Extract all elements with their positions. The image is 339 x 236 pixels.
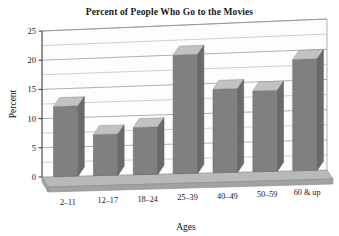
y-tick-label-20: 20	[28, 55, 37, 65]
bar-side-face	[238, 80, 244, 173]
bar-front-face	[293, 59, 318, 171]
bar-3	[133, 118, 164, 175]
bar-front-face	[133, 127, 158, 175]
y-tick-label-0: 0	[32, 172, 36, 182]
y-axis-title: Percent	[8, 89, 18, 118]
x-tick-label-6: 50–59	[257, 190, 277, 199]
x-tick-label-3: 18–24	[137, 195, 157, 204]
x-tick-label-5: 40–49	[217, 192, 237, 201]
bar-side-face	[278, 81, 284, 171]
bar-2	[93, 125, 124, 176]
bar-4	[173, 45, 204, 174]
bar-front-face	[54, 106, 79, 177]
bar-chart-figure: Percent of People Who Go to the Movies 0…	[0, 0, 339, 236]
bar-6	[253, 81, 284, 172]
x-tick-label-7: 60 & up	[294, 188, 321, 197]
y-tick-label-15: 15	[28, 84, 37, 94]
bar-front-face	[253, 90, 278, 172]
bar-7	[293, 50, 324, 171]
bar-5	[213, 80, 244, 173]
x-tick-group: 2–1112–1718–2425–3940–4950–5960 & up	[60, 188, 321, 207]
bar-side-face	[317, 50, 323, 171]
y-tick-group: 0510152025	[28, 26, 43, 182]
bar-front-face	[213, 89, 238, 173]
bar-front-face	[93, 134, 118, 176]
x-tick-label-2: 12–17	[98, 196, 118, 205]
bar-side-face	[158, 118, 164, 174]
x-tick-label-4: 25–39	[177, 193, 197, 202]
y-tick-label-5: 5	[32, 143, 36, 153]
bar-front-face	[173, 54, 198, 174]
y-tick-label-25: 25	[28, 26, 37, 36]
x-axis-title: Ages	[176, 222, 196, 232]
bar-side-face	[198, 45, 204, 173]
bar-side-face	[118, 125, 124, 175]
bar-1	[54, 97, 85, 177]
y-tick-label-10: 10	[28, 114, 37, 124]
bar-side-face	[78, 97, 84, 176]
chart-plot-area: 0510152025 2–1112–1718–2425–3940–4950–59…	[0, 0, 339, 236]
x-tick-label-1: 2–11	[60, 198, 76, 207]
